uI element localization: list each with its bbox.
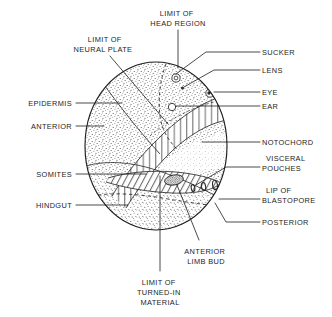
label-ear: EAR: [262, 102, 278, 111]
label-lip-of-blastopore: LIP OF BLASTOPORE: [262, 186, 315, 205]
label-limit-of-turned-in-material: LIMIT OF TURNED-IN MATERIAL: [137, 278, 183, 307]
label-notochord: NOTOCHORD: [262, 138, 313, 147]
label-sucker: SUCKER: [262, 48, 295, 57]
lip-of-blastopore-feature: [214, 198, 218, 202]
label-visceral-pouches: VISCERAL POUCHES: [262, 154, 308, 173]
label-limit-of-neural-plate: LIMIT OF NEURAL PLATE: [74, 35, 133, 54]
label-hindgut: HINDGUT: [36, 201, 72, 210]
leader-posterior: [215, 203, 260, 222]
label-eye: EYE: [262, 88, 278, 97]
label-anterior-limb-bud: ANTERIOR LIMB BUD: [184, 247, 227, 266]
diagram-page: LIMIT OF HEAD REGION LIMIT OF NEURAL PLA…: [0, 0, 332, 317]
sucker-feature: [172, 74, 180, 82]
embryo-body: [80, 58, 236, 238]
label-posterior: POSTERIOR: [262, 218, 309, 227]
embryo-fate-map-diagram: LIMIT OF HEAD REGION LIMIT OF NEURAL PLA…: [0, 0, 332, 317]
label-epidermis: EPIDERMIS: [28, 99, 72, 108]
lens-feature: [181, 87, 184, 90]
label-limit-of-head-region: LIMIT OF HEAD REGION: [150, 9, 206, 28]
ear-feature: [168, 103, 175, 110]
label-anterior: ANTERIOR: [31, 122, 72, 131]
label-somites: SOMITES: [36, 170, 72, 179]
label-lens: LENS: [262, 66, 283, 75]
